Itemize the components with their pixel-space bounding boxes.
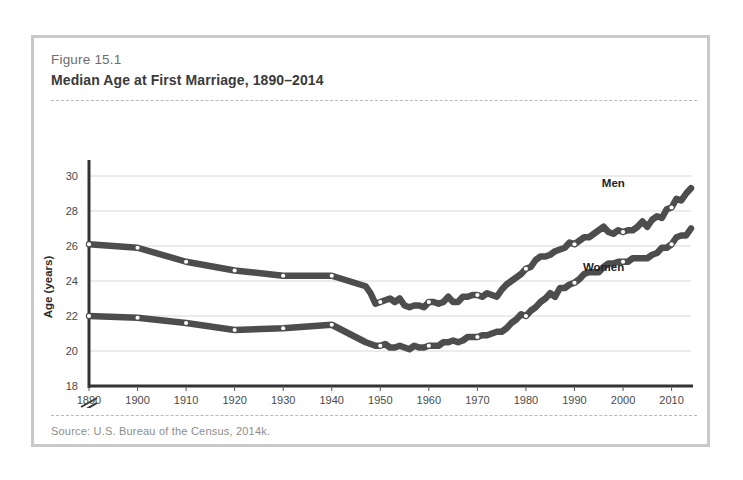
series-marker-men-1940 (330, 274, 334, 278)
x-tick-label-1890: 1890 (77, 394, 101, 406)
series-marker-women-1970 (475, 335, 479, 339)
y-tick-label-30: 30 (66, 170, 78, 182)
series-marker-men-1930 (281, 274, 285, 278)
series-marker-women-1990 (572, 281, 576, 285)
x-tick-label-1970: 1970 (465, 394, 489, 406)
series-line-women (89, 229, 691, 350)
x-tick-label-1960: 1960 (417, 394, 441, 406)
figure-page: Figure 15.1 Median Age at First Marriage… (0, 0, 743, 480)
series-line-men (89, 188, 691, 307)
x-tick-label-1950: 1950 (368, 394, 392, 406)
figure-header: Figure 15.1 Median Age at First Marriage… (51, 51, 691, 90)
x-tick-label-1940: 1940 (319, 394, 343, 406)
figure-frame: Figure 15.1 Median Age at First Marriage… (31, 35, 710, 447)
x-tick-label-1930: 1930 (271, 394, 295, 406)
series-label-men: Men (602, 177, 625, 189)
series-label-women: Women (583, 261, 624, 273)
series-marker-men-1970 (475, 293, 479, 297)
series-marker-men-1920 (233, 268, 237, 272)
chart-plot-area: 18202224262830Age (years)189019001910192… (34, 108, 713, 408)
figure-number: Figure 15.1 (51, 51, 691, 69)
y-tick-label-24: 24 (66, 275, 78, 287)
header-divider (51, 100, 697, 101)
source-divider (51, 415, 697, 416)
x-tick-label-1990: 1990 (562, 394, 586, 406)
series-marker-women-1890 (87, 314, 91, 318)
series-marker-men-2010 (669, 205, 673, 209)
figure-source: Source: U.S. Bureau of the Census, 2014k… (51, 425, 270, 437)
y-tick-label-28: 28 (66, 205, 78, 217)
series-marker-men-1910 (184, 260, 188, 264)
series-marker-women-1940 (330, 323, 334, 327)
y-tick-label-18: 18 (66, 380, 78, 392)
y-tick-label-22: 22 (66, 310, 78, 322)
series-marker-men-1890 (87, 242, 91, 246)
figure-title: Median Age at First Marriage, 1890–2014 (51, 71, 691, 90)
y-axis-title: Age (years) (42, 256, 54, 319)
series-marker-women-1960 (427, 344, 431, 348)
series-marker-women-1920 (233, 328, 237, 332)
series-marker-women-1900 (135, 316, 139, 320)
series-marker-men-1980 (524, 267, 528, 271)
series-marker-men-2000 (621, 230, 625, 234)
series-marker-men-1900 (135, 246, 139, 250)
series-marker-women-1980 (524, 314, 528, 318)
x-tick-label-1920: 1920 (222, 394, 246, 406)
series-marker-women-1930 (281, 326, 285, 330)
y-tick-label-26: 26 (66, 240, 78, 252)
series-marker-men-1960 (427, 300, 431, 304)
x-tick-label-2010: 2010 (659, 394, 683, 406)
series-marker-men-1950 (378, 300, 382, 304)
x-tick-label-2000: 2000 (611, 394, 635, 406)
series-marker-women-1910 (184, 321, 188, 325)
x-tick-label-1980: 1980 (514, 394, 538, 406)
series-marker-men-1990 (572, 242, 576, 246)
series-marker-women-2010 (669, 242, 673, 246)
x-tick-label-1910: 1910 (174, 394, 198, 406)
y-tick-label-20: 20 (66, 345, 78, 357)
x-tick-label-1900: 1900 (125, 394, 149, 406)
series-marker-women-1950 (378, 344, 382, 348)
line-chart: 18202224262830Age (years)189019001910192… (34, 108, 713, 408)
